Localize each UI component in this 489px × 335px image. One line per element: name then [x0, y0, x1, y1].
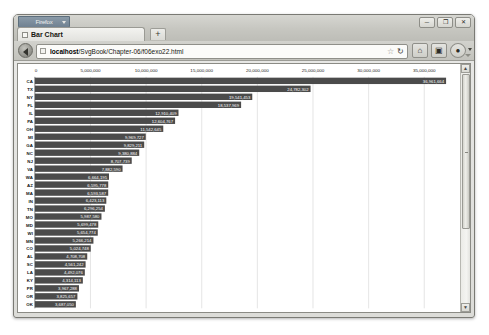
home-icon[interactable]: ⌂	[412, 43, 428, 58]
bar-value-label: 5,266,214	[73, 239, 93, 244]
category-label: NJ	[27, 159, 33, 164]
title-bar: Firefox Bar Chart + ─ ❐ ✕	[14, 15, 474, 41]
page-viewport: 05,000,00010,000,00015,000,00020,000,000…	[18, 64, 460, 312]
category-label: MA	[26, 191, 33, 196]
toolbar-overflow-chevron-icon[interactable]	[468, 48, 472, 51]
bar	[35, 78, 446, 84]
bar-value-label: 19,541,453	[229, 95, 251, 100]
category-label: WI	[28, 231, 33, 236]
chart-xaxis-ticks: 05,000,00010,000,00015,000,00020,000,000…	[35, 68, 436, 73]
bar-value-label: 24,782,302	[287, 87, 309, 92]
chevron-down-icon	[62, 21, 66, 24]
bar-value-label: 12,910,409	[155, 111, 177, 116]
bar-chart: 05,000,00010,000,00015,000,00020,000,000…	[18, 64, 460, 312]
bar	[35, 86, 311, 92]
close-button[interactable]: ✕	[455, 17, 471, 28]
window-controls: ─ ❐ ✕	[419, 17, 471, 28]
category-label: MD	[26, 223, 33, 228]
bar-value-label: 18,537,969	[218, 103, 240, 108]
category-label: OH	[26, 127, 33, 132]
bar	[35, 94, 252, 100]
bar-value-label: 6,423,113	[86, 199, 105, 204]
tab-strip: Bar Chart +	[17, 27, 471, 41]
x-tick-label: 25,000,000	[302, 68, 325, 73]
url-text: localhost/SvgBook/Chapter-06/f06exo22.ht…	[50, 45, 385, 58]
bar-value-label: 11,542,645	[140, 127, 162, 132]
back-arrow-icon	[23, 48, 28, 56]
bar-value-label: 4,492,076	[64, 270, 84, 275]
bar-value-label: 12,604,767	[152, 119, 174, 124]
category-label: OR	[26, 295, 33, 300]
chart-bars: 36,961,66424,782,30219,541,45318,537,969…	[35, 78, 446, 308]
scrollbar-thumb[interactable]	[462, 74, 470, 229]
tab-bar-chart[interactable]: Bar Chart	[17, 27, 145, 41]
bar-value-label: 3,687,050	[55, 302, 75, 307]
category-label: KY	[27, 279, 33, 284]
category-label: WA	[26, 175, 33, 180]
scrollbar-thumb-grip	[465, 152, 468, 153]
bar-value-label: 6,296,254	[84, 207, 104, 212]
firefox-menu-label: Firefox	[36, 19, 53, 25]
category-label: GA	[26, 143, 33, 148]
bar-value-label: 4,561,242	[65, 262, 85, 267]
category-label: PA	[27, 119, 33, 124]
bar-value-label: 6,664,195	[88, 175, 108, 180]
address-bar[interactable]: localhost/SvgBook/Chapter-06/f06exo22.ht…	[36, 44, 408, 59]
minimize-button[interactable]: ─	[419, 17, 435, 28]
bar-value-label: 5,699,478	[77, 223, 97, 228]
x-tick-label: 0	[35, 68, 38, 73]
bookmarks-toggle-chevron-icon[interactable]	[465, 54, 471, 57]
maximize-button[interactable]: ❐	[437, 17, 453, 28]
category-label: NC	[27, 151, 33, 156]
new-tab-button[interactable]: +	[150, 28, 166, 40]
bar-value-label: 4,708,708	[66, 255, 86, 260]
x-tick-label: 10,000,000	[135, 68, 158, 73]
category-label: IL	[29, 111, 33, 116]
tab-label: Bar Chart	[31, 28, 136, 41]
bar-value-label: 6,593,587	[87, 191, 107, 196]
x-tick-label: 15,000,000	[190, 68, 213, 73]
bar-value-label: 9,829,211	[124, 143, 143, 148]
category-label: MN	[26, 239, 33, 244]
x-tick-label: 35,000,000	[413, 68, 436, 73]
content-area: 05,000,00010,000,00015,000,00020,000,000…	[17, 63, 471, 313]
library-icon[interactable]: ▣	[431, 43, 447, 58]
bar-value-label: 3,967,288	[58, 286, 78, 291]
category-label: MO	[26, 215, 34, 220]
chart-category-labels: CATXNYFLILPAOHMIGANCNJVAWAAZMAINTNMOMDWI…	[26, 79, 34, 307]
category-label: VA	[27, 167, 33, 172]
page-icon	[22, 32, 28, 38]
navigation-toolbar: localhost/SvgBook/Chapter-06/f06exo22.ht…	[14, 41, 474, 61]
bar-value-label: 5,654,774	[77, 231, 97, 236]
url-host: localhost	[50, 48, 79, 55]
x-tick-label: 20,000,000	[246, 68, 269, 73]
category-label: AL	[27, 255, 33, 260]
bar-value-label: 4,314,113	[62, 278, 81, 283]
site-identity-icon	[40, 48, 46, 54]
category-label: SC	[27, 263, 33, 268]
reload-icon[interactable]: ↻	[397, 46, 404, 58]
category-label: LA	[27, 271, 33, 276]
bar	[35, 102, 241, 108]
bookmark-star-icon[interactable]: ☆	[387, 47, 394, 56]
browser-window: Firefox Bar Chart + ─ ❐ ✕ localhost/SvgB…	[13, 14, 475, 318]
category-label: FL	[28, 103, 34, 108]
category-label: TX	[27, 87, 33, 92]
x-tick-label: 30,000,000	[357, 68, 380, 73]
category-label: AZ	[27, 183, 33, 188]
vertical-scrollbar[interactable]: ▲ ▼	[460, 64, 470, 312]
menu-icon[interactable]: ●	[450, 43, 466, 58]
category-label: TN	[27, 207, 33, 212]
bar-value-label: 7,882,590	[102, 167, 122, 172]
bar-value-label: 36,961,664	[423, 79, 445, 84]
scroll-up-button[interactable]: ▲	[461, 64, 470, 73]
bar-value-label: 5,024,748	[70, 247, 90, 252]
category-label: MI	[28, 135, 33, 140]
back-button[interactable]	[18, 43, 33, 58]
category-label: OK	[26, 303, 33, 308]
scroll-down-button[interactable]: ▼	[461, 303, 470, 312]
bar-value-label: 8,707,739	[111, 159, 131, 164]
bar-value-label: 3,825,657	[57, 294, 77, 299]
category-label: CO	[26, 247, 33, 252]
bar-value-label: 9,969,727	[125, 135, 145, 140]
